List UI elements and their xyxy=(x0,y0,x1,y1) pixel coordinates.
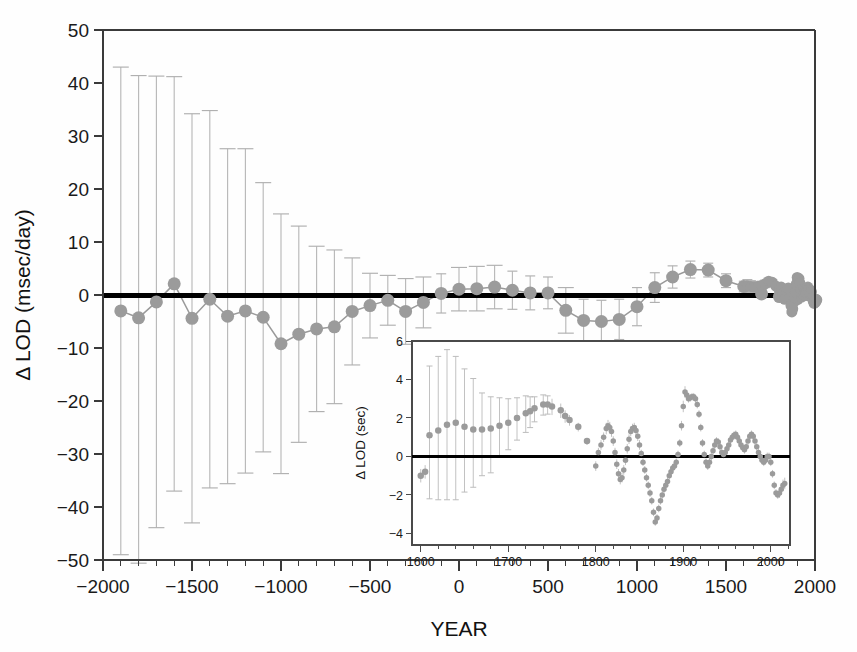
inset-datapoint xyxy=(710,448,716,454)
inset-datapoint xyxy=(726,442,732,448)
inset-datapoint xyxy=(619,475,625,481)
inset-datapoint xyxy=(768,459,774,465)
inset-datapoint xyxy=(695,402,701,408)
inset-datapoint xyxy=(744,444,750,450)
main-datapoint xyxy=(114,304,127,317)
main-x-tick-label: 1500 xyxy=(705,576,747,597)
main-datapoint xyxy=(310,322,323,335)
main-datapoint xyxy=(488,281,501,294)
main-datapoint xyxy=(257,311,270,324)
main-datapoint xyxy=(132,311,145,324)
inset-datapoint xyxy=(596,450,602,456)
inset-datapoint xyxy=(470,426,477,433)
main-plot-group: −50−40−30−20−1001020304050−2000−1500−100… xyxy=(11,20,836,640)
inset-datapoint xyxy=(770,471,776,477)
inset-datapoint xyxy=(639,451,645,457)
main-datapoint xyxy=(168,277,181,290)
main-x-tick-label: −2000 xyxy=(76,576,129,597)
inset-datapoint xyxy=(635,434,641,440)
inset-datapoint xyxy=(584,438,591,445)
main-datapoint xyxy=(186,312,199,325)
main-datapoint xyxy=(666,270,679,283)
main-x-tick-label: −1000 xyxy=(254,576,307,597)
inset-y-tick-label: −2 xyxy=(389,489,403,503)
main-y-tick-label: 10 xyxy=(68,232,89,253)
main-datapoint xyxy=(203,293,216,306)
main-datapoint xyxy=(559,304,572,317)
main-datapoint xyxy=(381,294,394,307)
inset-datapoint xyxy=(665,479,671,485)
inset-datapoint xyxy=(601,434,607,440)
inset-datapoint xyxy=(623,458,629,464)
inset-datapoint xyxy=(633,428,639,434)
main-y-tick-label: 20 xyxy=(68,179,89,200)
inset-datapoint xyxy=(461,423,468,430)
main-datapoint xyxy=(684,263,697,276)
inset-datapoint xyxy=(505,420,512,427)
main-datapoint xyxy=(720,274,733,287)
main-datapoint xyxy=(577,314,590,327)
inset-datapoint xyxy=(766,454,772,460)
main-datapoint xyxy=(811,294,822,305)
main-x-axis-title: YEAR xyxy=(430,617,487,640)
inset-datapoint xyxy=(531,405,538,412)
inset-datapoint xyxy=(626,436,632,442)
main-datapoint xyxy=(292,328,305,341)
main-datapoint xyxy=(470,282,483,295)
main-datapoint xyxy=(506,284,519,297)
inset-datapoint xyxy=(709,454,715,460)
main-y-tick-label: 30 xyxy=(68,126,89,147)
inset-datapoint xyxy=(782,481,788,487)
main-y-tick-label: −50 xyxy=(57,550,89,571)
chart-canvas: −50−40−30−20−1001020304050−2000−1500−100… xyxy=(0,0,857,652)
main-y-tick-label: −10 xyxy=(57,338,89,359)
main-datapoint xyxy=(346,305,359,318)
inset-x-tick-label: 2000 xyxy=(757,555,785,569)
main-datapoint xyxy=(613,313,626,326)
main-y-tick-label: 40 xyxy=(68,73,89,94)
inset-datapoint xyxy=(488,425,495,432)
inset-plot-group: −4−2024616001700180019002000 Δ LOD (sec) xyxy=(353,335,790,569)
inset-datapoint xyxy=(651,510,657,516)
inset-datapoint xyxy=(660,492,666,498)
inset-datapoint xyxy=(435,427,442,434)
inset-y-tick-label: 0 xyxy=(396,450,403,464)
main-x-tick-label: 0 xyxy=(454,576,465,597)
inset-datapoint xyxy=(656,506,662,512)
inset-datapoint xyxy=(426,432,433,439)
inset-datapoint xyxy=(716,439,722,445)
main-datapoint xyxy=(524,286,537,299)
main-datapoint xyxy=(239,304,252,317)
main-x-tick-label: 1000 xyxy=(616,576,658,597)
inset-datapoint xyxy=(693,396,699,402)
main-datapoint xyxy=(417,296,430,309)
inset-datapoint xyxy=(479,426,486,433)
inset-datapoint xyxy=(752,438,758,444)
inset-datapoint xyxy=(611,438,617,444)
main-connector-line-group xyxy=(121,270,815,344)
main-datapoint xyxy=(275,337,288,350)
inset-datapoint xyxy=(444,421,451,428)
inset-datapoint xyxy=(625,446,631,452)
main-datapoint xyxy=(648,281,661,294)
inset-y-axis-title: Δ LOD (sec) xyxy=(353,406,368,480)
main-datapoint xyxy=(542,286,555,299)
inset-datapoint xyxy=(681,404,687,410)
inset-datapoint xyxy=(453,420,460,427)
inset-x-tick-label: 1600 xyxy=(407,555,435,569)
inset-datapoint xyxy=(649,498,655,504)
main-y-tick-label: 50 xyxy=(68,20,89,41)
inset-x-tick-label: 1800 xyxy=(582,555,610,569)
inset-datapoint xyxy=(558,407,565,414)
inset-datapoint xyxy=(598,442,604,448)
main-y-tick-label: −30 xyxy=(57,444,89,465)
inset-datapoint xyxy=(751,434,757,440)
main-datapoint xyxy=(453,283,466,296)
inset-y-tick-label: 6 xyxy=(396,335,403,349)
inset-datapoint xyxy=(614,461,620,467)
inset-datapoint xyxy=(696,411,702,417)
main-datapoint xyxy=(702,264,715,277)
inset-datapoint xyxy=(698,425,704,431)
inset-datapoint xyxy=(658,498,664,504)
main-datapoint xyxy=(631,300,644,313)
